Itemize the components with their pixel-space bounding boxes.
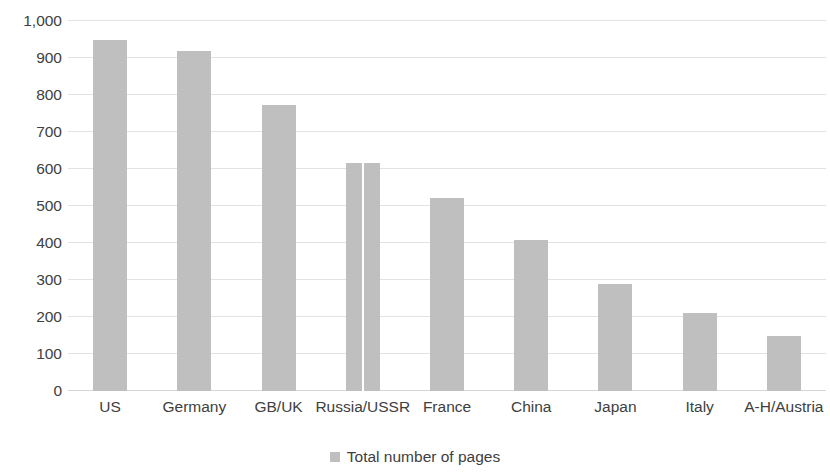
y-tick-label: 100 xyxy=(0,346,62,362)
x-tick-label: Germany xyxy=(162,398,226,417)
plot-area xyxy=(68,21,826,391)
bar-chart: 01002003004005006007008009001,000 USGerm… xyxy=(0,0,830,475)
bar xyxy=(430,198,464,391)
x-tick-label: France xyxy=(423,398,471,417)
x-tick-label: China xyxy=(511,398,552,417)
legend-swatch-icon xyxy=(330,452,340,462)
x-tick-label: Russia/USSR xyxy=(315,398,410,417)
bar xyxy=(93,40,127,391)
bar-series-total-number-of-pages xyxy=(68,21,826,391)
legend-label: Total number of pages xyxy=(347,449,500,465)
y-tick-label: 800 xyxy=(0,87,62,103)
x-tick-label: Japan xyxy=(594,398,636,417)
x-tick-label: Italy xyxy=(685,398,713,417)
legend: Total number of pages xyxy=(0,449,830,465)
bar xyxy=(514,240,548,391)
bar xyxy=(346,163,380,391)
y-tick-label: 300 xyxy=(0,272,62,288)
y-tick-label: 200 xyxy=(0,309,62,325)
x-tick-label: US xyxy=(99,398,121,417)
x-axis: USGermanyGB/UKRussia/USSRFranceChinaJapa… xyxy=(68,398,826,424)
bar xyxy=(683,313,717,391)
bar xyxy=(767,336,801,392)
y-tick-label: 900 xyxy=(0,50,62,66)
bar-split-line xyxy=(362,163,364,391)
y-tick-label: 400 xyxy=(0,235,62,251)
y-axis: 01002003004005006007008009001,000 xyxy=(0,0,62,412)
x-tick-label: GB/UK xyxy=(254,398,302,417)
y-tick-label: 500 xyxy=(0,198,62,214)
y-tick-label: 600 xyxy=(0,161,62,177)
bar xyxy=(262,105,296,391)
bar xyxy=(177,51,211,391)
x-tick-label: A-H/Austria xyxy=(744,398,823,417)
y-tick-label: 1,000 xyxy=(0,13,62,29)
y-tick-label: 0 xyxy=(0,383,62,399)
bar xyxy=(598,284,632,391)
y-tick-label: 700 xyxy=(0,124,62,140)
